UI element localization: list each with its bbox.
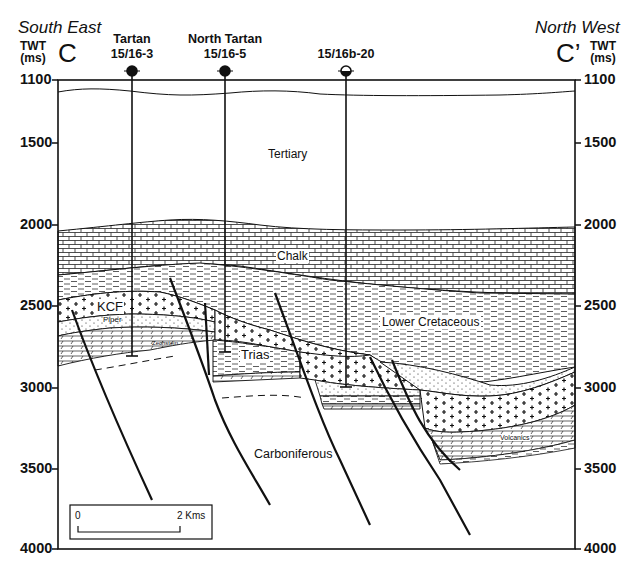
label-trias: Trias — [240, 347, 270, 362]
oil-well-icon — [220, 66, 230, 76]
unit-striped-east — [322, 404, 420, 409]
label-tertiary: Tertiary — [268, 147, 307, 161]
scale-bar-start: 0 — [75, 510, 81, 521]
scale-bar-end: 2 Kms — [177, 510, 205, 521]
seabed-line — [58, 89, 575, 96]
dashed-horizon-center — [222, 395, 305, 398]
label-lower-cretaceous: Lower Cretaceous — [380, 315, 481, 329]
dashed-horizon-left — [95, 356, 175, 370]
label-zechstein: Zechstein — [152, 340, 178, 346]
label-piper: Piper — [103, 315, 122, 324]
oil-well-icon — [127, 66, 137, 76]
unit-shale-east — [320, 396, 420, 404]
cross-section-diagram — [0, 0, 632, 565]
label-carboniferous: Carboniferous — [254, 447, 333, 461]
label-chalk: Chalk — [276, 249, 309, 263]
label-kcf: KCF — [96, 299, 124, 314]
label-volcanics: Volcanics — [500, 434, 530, 441]
